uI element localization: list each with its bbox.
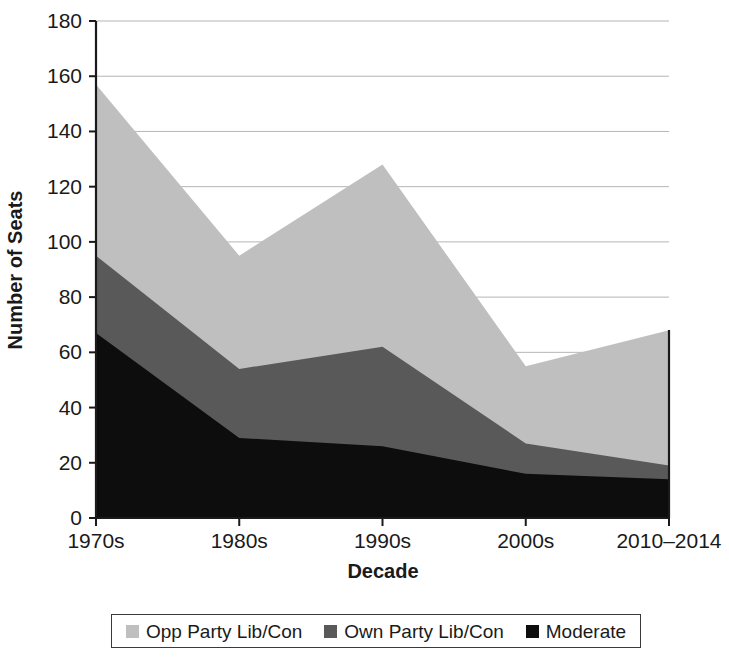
legend-label: Opp Party Lib/Con	[146, 622, 302, 641]
y-tick-label: 0	[70, 506, 82, 529]
legend-swatch-icon	[324, 625, 337, 638]
y-tick-label: 120	[47, 175, 82, 198]
y-tick-label: 100	[47, 230, 82, 253]
y-tick-label: 140	[47, 119, 82, 142]
legend-swatch-icon	[126, 625, 139, 638]
y-tick-label: 80	[59, 285, 82, 308]
y-tick-label: 20	[59, 451, 82, 474]
x-tick-label: 1980s	[211, 529, 268, 552]
legend-label: Own Party Lib/Con	[344, 622, 503, 641]
chart-figure: 020406080100120140160180 1970s1980s1990s…	[0, 0, 729, 662]
y-tick-label: 160	[47, 64, 82, 87]
y-axis-title: Number of Seats	[4, 191, 26, 350]
x-tick-label: 1970s	[67, 529, 124, 552]
y-tick-label: 180	[47, 9, 82, 32]
x-tick-label: 1990s	[354, 529, 411, 552]
y-axis-ticks: 020406080100120140160180	[47, 9, 96, 529]
legend-label: Moderate	[546, 622, 626, 641]
x-axis-ticks: 1970s1980s1990s2000s2010–2014	[67, 518, 721, 552]
x-axis-title: Decade	[347, 560, 418, 582]
y-tick-label: 40	[59, 396, 82, 419]
legend-swatch-icon	[526, 625, 539, 638]
plot-area: 020406080100120140160180 1970s1980s1990s…	[0, 0, 729, 600]
area-series-group	[96, 85, 669, 518]
x-tick-label: 2000s	[497, 529, 554, 552]
x-tick-label: 2010–2014	[616, 529, 721, 552]
stacked-area-chart: 020406080100120140160180 1970s1980s1990s…	[0, 0, 729, 600]
legend-item[interactable]: Own Party Lib/Con	[324, 622, 503, 641]
chart-legend: Opp Party Lib/ConOwn Party Lib/ConModera…	[111, 614, 641, 648]
y-tick-label: 60	[59, 340, 82, 363]
legend-item[interactable]: Moderate	[526, 622, 626, 641]
legend-item[interactable]: Opp Party Lib/Con	[126, 622, 302, 641]
